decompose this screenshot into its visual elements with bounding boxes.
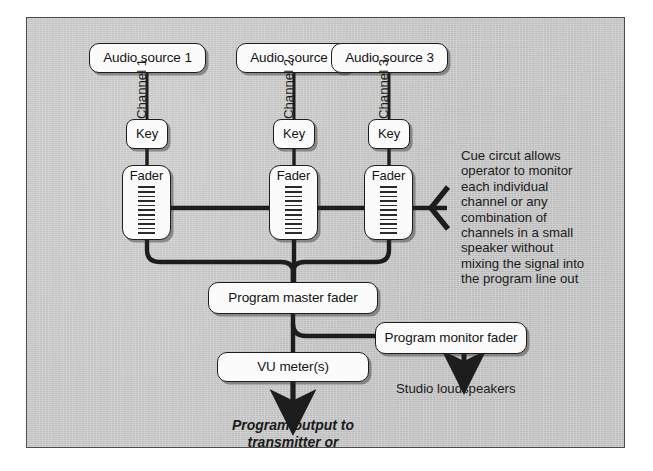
fader-tick — [285, 209, 302, 211]
node-key-3[interactable]: Key — [368, 119, 410, 149]
fader-tick — [285, 219, 302, 221]
program-monitor-fader-label: Program monitor fader — [385, 331, 518, 346]
fader-tick — [285, 223, 302, 225]
fader-tick — [138, 228, 155, 230]
fader-tick — [285, 232, 302, 234]
fader-3-scale-icon — [380, 186, 397, 239]
fader-tick — [380, 228, 397, 230]
fader-tick — [138, 219, 155, 221]
node-fader-3[interactable]: Fader — [364, 165, 413, 240]
node-fader-1[interactable]: Fader — [122, 165, 171, 240]
fader-tick — [138, 205, 155, 207]
fader-tick — [380, 223, 397, 225]
fader-tick — [138, 186, 155, 188]
node-vu-meter[interactable]: VU meter(s) — [217, 352, 369, 382]
fader-tick — [380, 214, 397, 216]
node-program-monitor-fader[interactable]: Program monitor fader — [375, 322, 527, 354]
channel-2-label: Channel 2 — [281, 59, 296, 119]
fader-tick — [380, 232, 397, 234]
fader-1-scale-icon — [138, 186, 155, 239]
fader-tick — [285, 205, 302, 207]
fader-tick — [285, 196, 302, 198]
fader-tick — [138, 232, 155, 234]
fader-tick — [285, 200, 302, 202]
wire-fader3-to-master — [293, 240, 389, 282]
fader-tick — [380, 186, 397, 188]
fader-tick — [138, 191, 155, 193]
fader-tick — [138, 200, 155, 202]
fader-tick — [380, 196, 397, 198]
fader-2-scale-icon — [285, 186, 302, 239]
node-key-2[interactable]: Key — [273, 119, 315, 149]
diagram-panel: Audio source 1 Audio source 2 Audio sour… — [26, 17, 625, 448]
fader-tick — [138, 214, 155, 216]
diagram-canvas: Audio source 1 Audio source 2 Audio sour… — [0, 0, 653, 471]
wire-master-to-monitor — [293, 324, 375, 336]
fader-tick — [285, 191, 302, 193]
fader-tick — [138, 196, 155, 198]
fader-tick — [285, 186, 302, 188]
fader-tick — [380, 209, 397, 211]
fader-tick — [285, 214, 302, 216]
program-master-fader-label: Program master fader — [228, 291, 357, 306]
cue-circuit-note: Cue circut allows operator to monitor ea… — [461, 148, 611, 287]
key-1-label: Key — [136, 127, 158, 141]
fader-tick — [380, 200, 397, 202]
fader-1-label: Fader — [130, 169, 163, 183]
node-fader-2[interactable]: Fader — [269, 165, 318, 240]
key-3-label: Key — [378, 127, 400, 141]
fader-tick — [380, 191, 397, 193]
key-2-label: Key — [283, 127, 305, 141]
fader-2-label: Fader — [277, 169, 310, 183]
fader-tick — [380, 205, 397, 207]
node-program-master-fader[interactable]: Program master fader — [208, 282, 378, 314]
fader-tick — [380, 219, 397, 221]
studio-loudspeakers-label: Studio loudspeakers — [396, 381, 516, 396]
program-output-label: Program output to transmitter or recorde… — [198, 417, 388, 448]
fader-tick — [138, 209, 155, 211]
vu-meter-label: VU meter(s) — [257, 360, 329, 375]
fader-tick — [138, 223, 155, 225]
fader-tick — [285, 228, 302, 230]
wire-fader1-to-master — [147, 240, 293, 282]
node-key-1[interactable]: Key — [126, 119, 168, 149]
channel-1-label: Channel 1 — [134, 59, 149, 119]
fader-3-label: Fader — [372, 169, 405, 183]
channel-3-label: Channel 3 — [376, 59, 391, 119]
